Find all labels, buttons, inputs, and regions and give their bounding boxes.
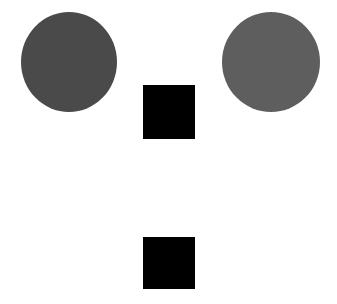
square-top [143,85,195,139]
square-bottom [143,237,195,289]
circle-right [222,12,320,112]
circle-left [21,12,117,112]
